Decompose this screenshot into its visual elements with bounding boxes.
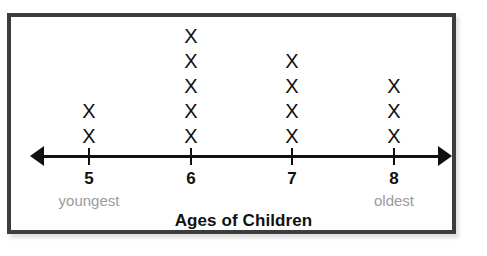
x-marker: X <box>334 74 454 99</box>
x-stack-8: XXX <box>334 74 454 149</box>
dot-plot-figure: XX 5 youngest XXXXX 6 XXXX 7 XXX 8 oldes… <box>0 0 487 256</box>
tick-mark-5 <box>88 148 90 165</box>
tick-label-8: 8 <box>334 169 454 189</box>
x-marker: X <box>334 124 454 149</box>
plot-surface: XX 5 youngest XXXXX 6 XXXX 7 XXX 8 oldes… <box>0 0 487 256</box>
axis-note-oldest: oldest <box>334 192 454 209</box>
tick-mark-7 <box>291 148 293 165</box>
tick-mark-8 <box>393 148 395 165</box>
x-marker: X <box>334 99 454 124</box>
tick-mark-6 <box>190 148 192 165</box>
chart-title: Ages of Children <box>0 211 487 231</box>
